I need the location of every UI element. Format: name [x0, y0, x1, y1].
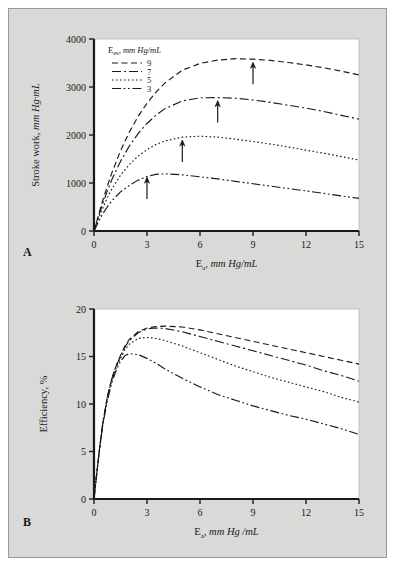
svg-text:20: 20 — [76, 304, 86, 315]
x-axis-title: Ea, mm Hg/mL — [196, 258, 258, 272]
svg-text:0: 0 — [92, 239, 97, 250]
svg-text:3: 3 — [145, 239, 150, 250]
svg-text:1000: 1000 — [66, 178, 86, 189]
svg-text:0: 0 — [81, 494, 86, 505]
x-axis-title: Ea, mm Hg /mL — [194, 526, 259, 540]
svg-text:12: 12 — [301, 239, 311, 250]
svg-text:6: 6 — [198, 239, 203, 250]
svg-text:15: 15 — [354, 507, 364, 518]
svg-text:0: 0 — [92, 507, 97, 518]
svg-text:0: 0 — [81, 226, 86, 237]
svg-text:10: 10 — [76, 399, 86, 410]
svg-text:5: 5 — [81, 446, 86, 457]
svg-text:3: 3 — [145, 507, 150, 518]
legend-label-3: 3 — [147, 84, 151, 94]
svg-text:9: 9 — [251, 239, 256, 250]
panel-b-chart: 0510152003691215Ea, mm Hg /mLEfficiency,… — [9, 287, 388, 559]
svg-text:6: 6 — [198, 507, 203, 518]
y-axis-title: Stroke work, mm Hg·mL — [30, 83, 41, 187]
panel-b: 0510152003691215Ea, mm Hg /mLEfficiency,… — [9, 287, 388, 559]
svg-text:4000: 4000 — [66, 34, 86, 45]
panel-a-chart: 0100020003000400003691215Ea, mm Hg/mLStr… — [9, 9, 388, 294]
y-axis-title: Efficiency, % — [38, 375, 49, 432]
panel-a-label: A — [23, 245, 32, 260]
svg-text:3000: 3000 — [66, 82, 86, 93]
panel-a: 0100020003000400003691215Ea, mm Hg/mLStr… — [9, 9, 388, 294]
svg-text:12: 12 — [301, 507, 311, 518]
svg-text:15: 15 — [354, 239, 364, 250]
svg-text:15: 15 — [76, 351, 86, 362]
svg-text:2000: 2000 — [66, 130, 86, 141]
svg-text:9: 9 — [251, 507, 256, 518]
figure-frame: 0100020003000400003691215Ea, mm Hg/mLStr… — [8, 8, 387, 558]
panel-b-label: B — [23, 515, 31, 530]
